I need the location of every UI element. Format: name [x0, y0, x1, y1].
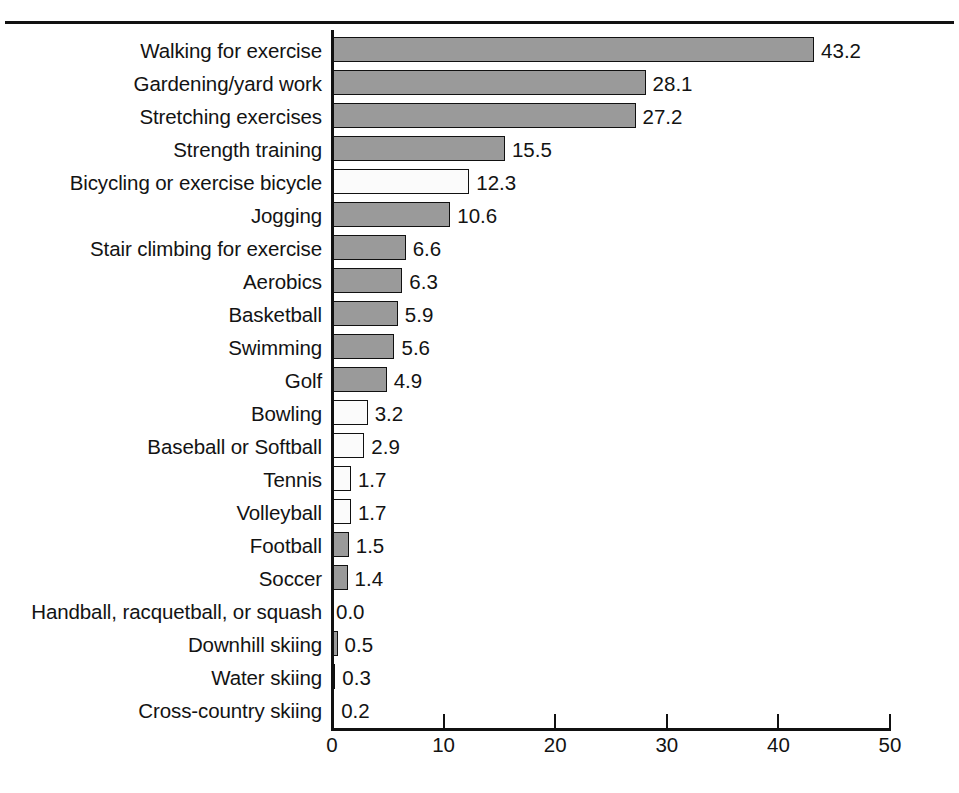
bar: [332, 400, 368, 425]
category-label: Walking for exercise: [0, 34, 322, 67]
bar-value-label: 1.7: [358, 496, 387, 529]
bar-row: Jogging10.6: [0, 199, 959, 232]
category-label: Stretching exercises: [0, 100, 322, 133]
x-tick-label: 20: [525, 733, 585, 757]
bar-value-label: 3.2: [375, 397, 404, 430]
bar: [332, 532, 349, 557]
bar-row: Tennis1.7: [0, 463, 959, 496]
bar-value-label: 6.3: [409, 265, 438, 298]
bar-value-label: 0.0: [336, 595, 365, 628]
bar: [332, 466, 351, 491]
x-tick-label: 40: [748, 733, 808, 757]
bar-row: Strength training15.5: [0, 133, 959, 166]
bar: [332, 169, 469, 194]
category-label: Jogging: [0, 199, 322, 232]
category-label: Golf: [0, 364, 322, 397]
bar: [332, 202, 450, 227]
top-divider-rule: [5, 21, 954, 24]
bar: [332, 367, 387, 392]
category-label: Tennis: [0, 463, 322, 496]
category-label: Stair climbing for exercise: [0, 232, 322, 265]
bar: [332, 565, 348, 590]
bar: [332, 268, 402, 293]
bar-value-label: 15.5: [512, 133, 552, 166]
bar-row: Walking for exercise43.2: [0, 34, 959, 67]
bar-value-label: 2.9: [371, 430, 400, 463]
x-tick-label: 10: [414, 733, 474, 757]
chart-figure: Walking for exercise43.2Gardening/yard w…: [0, 0, 959, 793]
bar: [332, 433, 364, 458]
bar-value-label: 1.7: [358, 463, 387, 496]
bar-value-label: 1.4: [355, 562, 384, 595]
bar: [332, 37, 814, 62]
bar: [332, 136, 505, 161]
bar-row: Volleyball1.7: [0, 496, 959, 529]
bar-row: Baseball or Softball2.9: [0, 430, 959, 463]
bar-value-label: 0.3: [342, 661, 371, 694]
x-tick-label: 50: [860, 733, 920, 757]
bar-value-label: 6.6: [413, 232, 442, 265]
x-tick-mark: [777, 714, 779, 728]
category-label: Gardening/yard work: [0, 67, 322, 100]
bar-value-label: 12.3: [476, 166, 516, 199]
bar-row: Downhill skiing0.5: [0, 628, 959, 661]
category-label: Cross-country skiing: [0, 694, 322, 727]
bar: [332, 235, 406, 260]
x-tick-label: 0: [302, 733, 362, 757]
bar-row: Stretching exercises27.2: [0, 100, 959, 133]
bar-value-label: 5.9: [405, 298, 434, 331]
bar-value-label: 4.9: [394, 364, 423, 397]
y-axis-spine: [331, 30, 334, 729]
category-label: Downhill skiing: [0, 628, 322, 661]
x-tick-mark: [666, 714, 668, 728]
plot-area: Walking for exercise43.2Gardening/yard w…: [0, 30, 959, 730]
x-tick-mark: [443, 714, 445, 728]
bottom-caption: [0, 784, 959, 793]
bar-row: Swimming5.6: [0, 331, 959, 364]
category-label: Bicycling or exercise bicycle: [0, 166, 322, 199]
bar-value-label: 5.6: [401, 331, 430, 364]
bar: [332, 334, 394, 359]
bar-value-label: 1.5: [356, 529, 385, 562]
bar-value-label: 0.2: [341, 694, 370, 727]
category-label: Strength training: [0, 133, 322, 166]
bar: [332, 499, 351, 524]
category-label: Handball, racquetball, or squash: [0, 595, 322, 628]
category-label: Football: [0, 529, 322, 562]
bar-row: Stair climbing for exercise6.6: [0, 232, 959, 265]
category-label: Swimming: [0, 331, 322, 364]
x-tick-label: 30: [637, 733, 697, 757]
bar-row: Bicycling or exercise bicycle12.3: [0, 166, 959, 199]
bar-value-label: 43.2: [821, 34, 861, 67]
bar: [332, 70, 646, 95]
bar-row: Football1.5: [0, 529, 959, 562]
bar-row: Water skiing0.3: [0, 661, 959, 694]
x-tick-mark: [554, 714, 556, 728]
category-label: Volleyball: [0, 496, 322, 529]
category-label: Soccer: [0, 562, 322, 595]
category-label: Baseball or Softball: [0, 430, 322, 463]
bar-row: Aerobics6.3: [0, 265, 959, 298]
bar-row: Soccer1.4: [0, 562, 959, 595]
x-tick-mark: [331, 714, 333, 728]
bar-row: Handball, racquetball, or squash0.0: [0, 595, 959, 628]
category-label: Bowling: [0, 397, 322, 430]
bar: [332, 301, 398, 326]
category-label: Aerobics: [0, 265, 322, 298]
x-tick-mark: [889, 714, 891, 728]
bar-row: Bowling3.2: [0, 397, 959, 430]
category-label: Water skiing: [0, 661, 322, 694]
bar-row: Cross-country skiing0.2: [0, 694, 959, 727]
bar-row: Golf4.9: [0, 364, 959, 397]
bar: [332, 103, 636, 128]
bar-value-label: 27.2: [643, 100, 683, 133]
bar-row: Basketball5.9: [0, 298, 959, 331]
bar-value-label: 10.6: [457, 199, 497, 232]
category-label: Basketball: [0, 298, 322, 331]
x-axis-line: [331, 728, 891, 731]
bar-row: Gardening/yard work28.1: [0, 67, 959, 100]
bar-value-label: 28.1: [653, 67, 693, 100]
bar-value-label: 0.5: [345, 628, 374, 661]
